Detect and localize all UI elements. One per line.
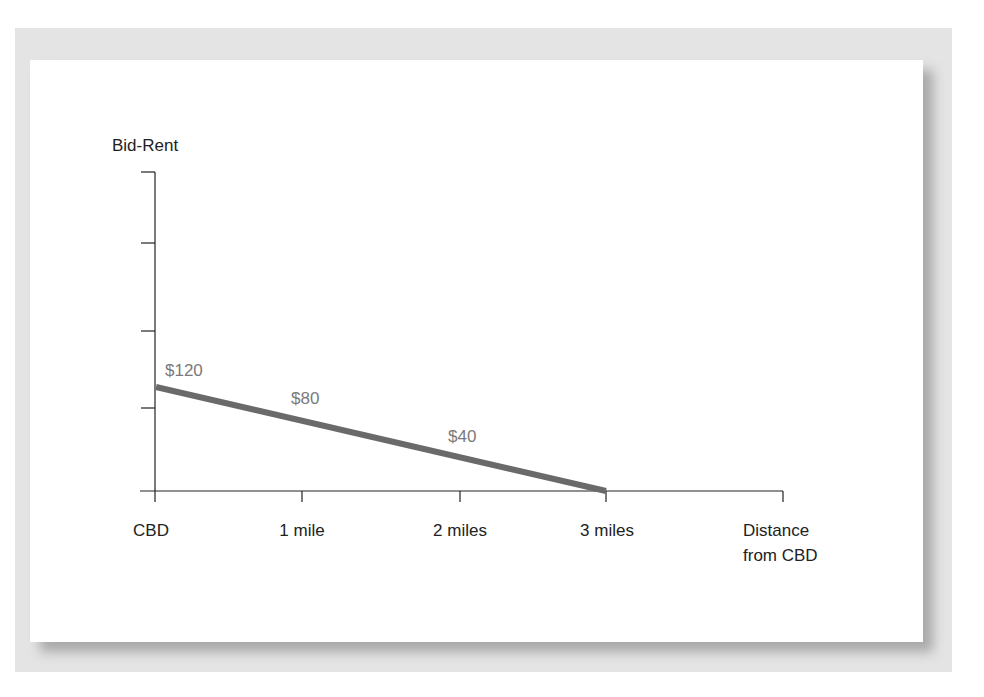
bid-rent-chart: Bid-Rent $120 $80 $40 CBD 1 mile 2 miles… <box>0 0 984 697</box>
x-tick-label-2-miles: 2 miles <box>433 521 487 540</box>
data-label-40: $40 <box>448 427 476 446</box>
x-tick-label-3-miles: 3 miles <box>580 521 634 540</box>
x-tick-label-1-mile: 1 mile <box>279 521 324 540</box>
y-axis-title: Bid-Rent <box>112 136 178 155</box>
data-label-120: $120 <box>165 361 203 380</box>
x-tick-label-cbd: CBD <box>133 521 169 540</box>
bid-rent-line <box>156 387 606 491</box>
x-axis-title-line2: from CBD <box>743 546 818 565</box>
x-axis-title-line1: Distance <box>743 521 809 540</box>
data-label-80: $80 <box>291 389 319 408</box>
